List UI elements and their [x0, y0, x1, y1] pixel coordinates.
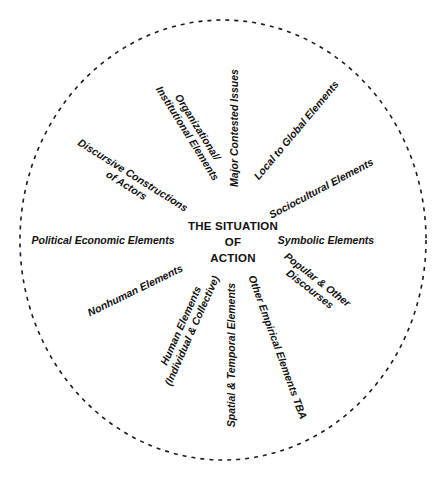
- center-line-2: OF: [185, 234, 281, 250]
- situation-of-action-center-label: THE SITUATION OF ACTION: [185, 218, 281, 266]
- center-line-1: THE SITUATION: [185, 218, 281, 234]
- political-economic-text: Political Economic Elements: [32, 234, 175, 246]
- symbolic-text: Symbolic Elements: [278, 234, 374, 246]
- center-line-3: ACTION: [185, 250, 281, 266]
- situational-map-diagram: THE SITUATION OF ACTION Major Contested …: [0, 0, 440, 479]
- spatial-temporal-text: Spatial & Temporal Elements: [225, 283, 237, 427]
